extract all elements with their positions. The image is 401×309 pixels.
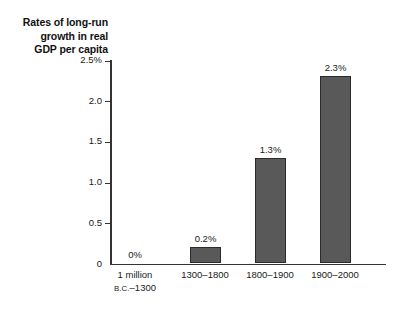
y-tick-mark-0_5 xyxy=(105,223,110,224)
bar-value-1800-1900: 1.3% xyxy=(245,144,296,155)
bar-value-1-million-bc-1300: 0% xyxy=(110,249,160,260)
bar-value-1300-1800: 0.2% xyxy=(180,233,231,244)
bar-chart: Rates of long-run growth in real GDP per… xyxy=(0,0,401,309)
x-label-1300-1800: 1300–1800 xyxy=(172,269,238,282)
y-tick-label-0_5-wrap: 0.5 xyxy=(56,218,102,228)
y-tick-label-1_5: 1.5 xyxy=(60,136,102,146)
bar-1800-1900 xyxy=(255,158,286,264)
y-tick-mark-1_0 xyxy=(105,183,110,184)
y-tick-label-2_5-wrap: 2.5% xyxy=(56,55,102,65)
y-tick-label-1_0: 1.0 xyxy=(60,177,102,187)
x-axis-line xyxy=(110,264,386,266)
y-tick-label-2_0: 2.0 xyxy=(60,96,102,106)
y-tick-label-2_0-wrap: 2.0 xyxy=(56,96,102,106)
y-tick-mark-2_0 xyxy=(105,101,110,102)
x-label-1-million-bc-1300: 1 million B.C.–1300 xyxy=(102,269,168,295)
x-label-line2-rest: –1300 xyxy=(130,282,156,293)
x-label-1900-2000: 1900–2000 xyxy=(302,269,368,282)
y-tick-mark-2_5 xyxy=(105,61,110,62)
x-label-line2-era: B.C. xyxy=(114,284,130,293)
y-tick-label-0_5: 0.5 xyxy=(60,218,102,228)
bar-1300-1800 xyxy=(190,247,221,263)
x-label-1800-1900: 1800–1900 xyxy=(237,269,303,282)
y-tick-label-1_5-wrap: 1.5 xyxy=(56,136,102,146)
y-tick-label-1_0-wrap: 1.0 xyxy=(56,177,102,187)
bar-value-1900-2000: 2.3% xyxy=(310,62,361,73)
y-axis-line xyxy=(110,60,112,265)
y-tick-label-2_5: 2.5% xyxy=(60,55,102,65)
y-tick-label-0-wrap: 0 xyxy=(56,259,102,269)
y-tick-mark-1_5 xyxy=(105,142,110,143)
x-label-line1: 1 million xyxy=(118,269,153,280)
bar-1900-2000 xyxy=(320,76,351,263)
y-tick-label-0: 0 xyxy=(60,259,102,269)
chart-title: Rates of long-run growth in real GDP per… xyxy=(8,16,108,57)
